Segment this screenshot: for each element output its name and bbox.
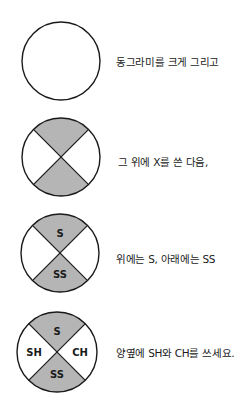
label-bottom: SS [53, 269, 67, 280]
label-top: S [56, 228, 63, 239]
step-2-circle-x [22, 118, 100, 196]
label-bottom: SS [50, 369, 64, 380]
label-top: S [53, 326, 60, 337]
step-1-caption: 동그라미를 크게 그리고 [116, 54, 219, 69]
step-3-caption: 위에는 S, 아래에는 SS [116, 251, 215, 266]
step-4-caption: 양옆에 SH와 CH를 쓰세요. [116, 345, 234, 360]
label-right: CH [72, 347, 88, 358]
label-left: SH [26, 347, 42, 358]
step-2-caption: 그 위에 X를 쓴 다음, [118, 154, 208, 169]
step-3-circle-s-ss: S SS [21, 214, 99, 292]
step-1-circle [22, 22, 100, 100]
step-4-circle-full: S SS SH CH [17, 312, 97, 392]
